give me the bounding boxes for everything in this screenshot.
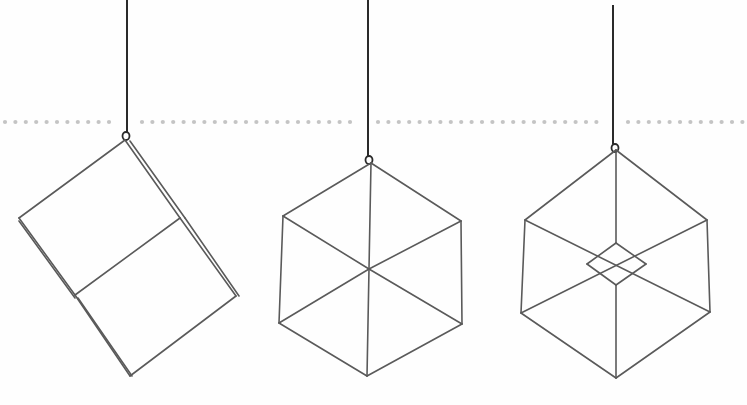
hexagon-cube [279, 0, 462, 376]
dot [97, 120, 101, 124]
dot [306, 120, 310, 124]
wire-edge [616, 312, 710, 378]
dot [317, 120, 321, 124]
dot [699, 120, 703, 124]
dot [584, 120, 588, 124]
wire-edge [130, 141, 185, 218]
dot [470, 120, 474, 124]
dot [171, 120, 175, 124]
wire-edge [367, 324, 462, 376]
wire-edge [616, 150, 707, 220]
wire-edge [78, 298, 132, 376]
dot [234, 120, 238, 124]
wire-edge [19, 140, 125, 218]
dot [594, 120, 598, 124]
dot [490, 120, 494, 124]
dot [636, 120, 640, 124]
photo-scene [0, 0, 747, 405]
dot [161, 120, 165, 124]
dot [244, 120, 248, 124]
wire-edge [19, 221, 75, 298]
dot [76, 120, 80, 124]
inner-diamond-cube [521, 5, 710, 378]
dot [182, 120, 186, 124]
dot [348, 120, 352, 124]
dot [13, 120, 17, 124]
wire-edge [283, 216, 369, 269]
dot [107, 120, 111, 124]
dot [192, 120, 196, 124]
dot [428, 120, 432, 124]
dot [418, 120, 422, 124]
dot [553, 120, 557, 124]
dot [86, 120, 90, 124]
wire-edge [75, 218, 180, 295]
dot [730, 120, 734, 124]
dot [709, 120, 713, 124]
wire-edge [279, 216, 283, 323]
dot [150, 120, 154, 124]
wire-edge [525, 220, 710, 312]
dot [501, 120, 505, 124]
dot [3, 120, 7, 124]
tilted-cube [19, 0, 239, 376]
wire-edge [279, 323, 367, 376]
wire-edge [75, 295, 130, 376]
wire-edge [521, 220, 707, 313]
dot [511, 120, 515, 124]
wire-edge [279, 269, 369, 323]
wire-edge [283, 163, 371, 216]
hanging-cube-ornaments [0, 0, 747, 405]
hook [123, 132, 130, 140]
wire-edge [185, 218, 239, 296]
dot [275, 120, 279, 124]
dot [213, 120, 217, 124]
dot [65, 120, 69, 124]
dot [265, 120, 269, 124]
dot [34, 120, 38, 124]
wire-edge [369, 163, 371, 269]
dot [338, 120, 342, 124]
wire-edge [521, 313, 616, 378]
wire-edge [461, 221, 462, 324]
wire-edge [371, 163, 461, 221]
dot [668, 120, 672, 124]
dot [542, 120, 546, 124]
dotted-line [3, 120, 745, 124]
wire-edge [130, 296, 236, 376]
dot [438, 120, 442, 124]
dot [45, 120, 49, 124]
dot [223, 120, 227, 124]
wire-edge [180, 218, 236, 296]
wire-edge [707, 220, 710, 312]
dot [626, 120, 630, 124]
dot [254, 120, 258, 124]
dot [522, 120, 526, 124]
dot [24, 120, 28, 124]
wire-edge [369, 221, 461, 269]
dot [657, 120, 661, 124]
dot [202, 120, 206, 124]
dot [386, 120, 390, 124]
wire-edge [367, 269, 369, 376]
dot [678, 120, 682, 124]
wire-edge [125, 140, 180, 218]
dot [286, 120, 290, 124]
dot [563, 120, 567, 124]
dot [55, 120, 59, 124]
dot [449, 120, 453, 124]
wire-edge [521, 220, 525, 313]
dot [480, 120, 484, 124]
dot [647, 120, 651, 124]
wire-edge [525, 150, 616, 220]
dot [459, 120, 463, 124]
dot [376, 120, 380, 124]
dot [532, 120, 536, 124]
dot [720, 120, 724, 124]
dot [397, 120, 401, 124]
dot [296, 120, 300, 124]
dot [740, 120, 744, 124]
wire-edge [369, 269, 462, 324]
dot [407, 120, 411, 124]
dot [327, 120, 331, 124]
